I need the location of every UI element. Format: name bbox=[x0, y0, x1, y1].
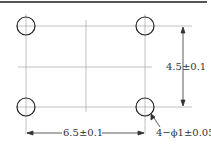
hole-callout-label: 4−ϕ1±0.05 bbox=[156, 128, 211, 138]
holes bbox=[17, 17, 154, 116]
centerlines bbox=[16, 14, 192, 134]
dim-horizontal-label: 6.5±0.1 bbox=[63, 128, 103, 138]
hole-leader bbox=[151, 114, 160, 127]
dim-vertical-label: 4.5±0.1 bbox=[166, 62, 206, 72]
